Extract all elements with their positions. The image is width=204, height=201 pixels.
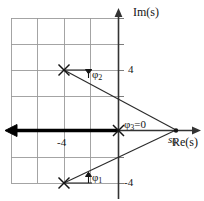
plot-canvas [0, 0, 204, 201]
grid-lines [11, 18, 118, 183]
imaginary-tick-label-negative-4: -4 [124, 177, 133, 188]
imaginary-axis-label: Im(s) [133, 6, 159, 18]
phi1-label: φ1 [92, 172, 102, 183]
phi3-label: φ3=0 [124, 119, 146, 130]
phi2-subscript: 2 [98, 73, 102, 82]
s-plane-diagram: Im(s) Re(s) 4 -4 -4 φ2 φ1 φ3=0 s0 [0, 0, 204, 201]
imaginary-axis [115, 8, 123, 199]
test-point-subscript: 0 [172, 138, 176, 147]
root-locus-thick-arrow [5, 125, 118, 137]
vector-phi1-line [64, 130, 176, 183]
phi3-subscript: 3 [130, 123, 134, 132]
test-point-marker [174, 128, 178, 132]
vector-phi2-line [64, 70, 176, 130]
test-point-label: s0 [168, 134, 176, 145]
imaginary-tick-label-positive-4: 4 [128, 64, 134, 75]
real-tick-label-negative-4: -4 [57, 137, 66, 148]
phi2-label: φ2 [92, 69, 102, 80]
phi3-value: =0 [134, 118, 146, 130]
angle-vector-lines [64, 70, 176, 183]
phi1-subscript: 1 [98, 176, 102, 185]
